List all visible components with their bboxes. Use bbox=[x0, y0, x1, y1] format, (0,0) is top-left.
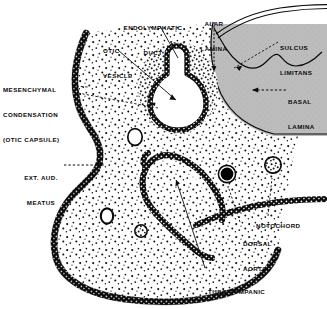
dorsal-aorta-body bbox=[218, 165, 235, 182]
label-tubo-tympanic-recess: TUBO-TYMPANIC RECESS bbox=[208, 272, 282, 309]
label-basal-lamina-line1: BASAL bbox=[288, 98, 327, 106]
label-endolymphatic-duct-line2: DUCT bbox=[117, 49, 189, 57]
label-basal-lamina: BASAL LAMINA bbox=[288, 82, 327, 148]
label-mesenchymal-condensation-line2: CONDENSATION bbox=[3, 111, 79, 119]
label-sulcus-limitans-line1: SULCUS bbox=[280, 44, 326, 52]
label-ext-aud-meatus: EXT. AUD. MEATUS bbox=[18, 158, 64, 224]
label-alar-lamina-line1: ALAR bbox=[192, 20, 236, 28]
label-sulcus-limitans-line2: LIMITANS bbox=[280, 69, 326, 77]
label-endolymphatic-duct-line1: ENDOLYMPHATIC bbox=[117, 24, 189, 32]
diagram-page: MESENCHYMAL CONDENSATION (OTIC CAPSULE) … bbox=[0, 0, 327, 309]
label-mesenchymal-condensation: MESENCHYMAL CONDENSATION (OTIC CAPSULE) bbox=[3, 70, 79, 160]
label-tubo-tympanic-recess-line1: TUBO-TYMPANIC bbox=[208, 288, 282, 296]
label-basal-lamina-line2: LAMINA bbox=[288, 123, 327, 131]
notochord-body bbox=[265, 157, 281, 173]
label-ext-aud-meatus-line2: MEATUS bbox=[18, 199, 64, 207]
label-mesenchymal-condensation-line3: (OTIC CAPSULE) bbox=[3, 136, 79, 144]
label-alar-lamina-line2: LAMINA bbox=[192, 45, 236, 53]
label-dorsal-aorta-line1: DORSAL bbox=[243, 240, 287, 248]
label-endolymphatic-duct: ENDOLYMPHATIC DUCT bbox=[117, 8, 189, 74]
label-mesenchymal-condensation-line1: MESENCHYMAL bbox=[3, 86, 79, 94]
label-ext-aud-meatus-line1: EXT. AUD. bbox=[18, 174, 64, 182]
label-alar-lamina: ALAR LAMINA bbox=[192, 4, 236, 70]
